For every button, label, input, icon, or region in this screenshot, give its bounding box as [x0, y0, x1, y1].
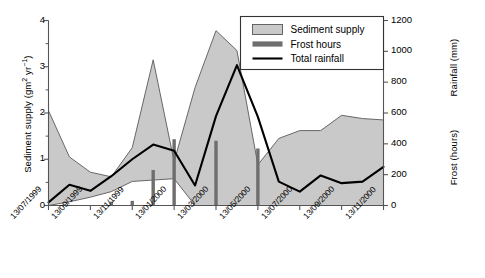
chart-figure: Sediment supply (gm2 yr−1) Rainfall (mm)…	[0, 0, 485, 278]
chart-legend: Sediment supplyFrost hoursTotal rainfall	[241, 17, 384, 70]
y-tick-left-1: 1	[33, 153, 45, 163]
legend-label-frost-hours: Frost hours	[291, 39, 342, 50]
y-tick-right-0: 0	[391, 200, 396, 210]
y-tick-left-0: 0	[33, 200, 45, 210]
y-tick-right-400: 400	[391, 138, 407, 148]
y-tick-right-1000: 1000	[391, 45, 412, 55]
y-tick-left-2: 2	[33, 107, 45, 117]
y-tick-right-1200: 1200	[391, 15, 412, 25]
legend-label-total-rainfall: Total rainfall	[291, 53, 344, 64]
plot-area: Sediment supplyFrost hoursTotal rainfall	[0, 0, 485, 278]
y-tick-left-3: 3	[33, 61, 45, 71]
y-tick-right-200: 200	[391, 169, 407, 179]
y-tick-left-4: 4	[33, 15, 45, 25]
legend-label-sediment-supply: Sediment supply	[291, 24, 365, 35]
y-tick-right-800: 800	[391, 76, 407, 86]
y-tick-right-600: 600	[391, 107, 407, 117]
